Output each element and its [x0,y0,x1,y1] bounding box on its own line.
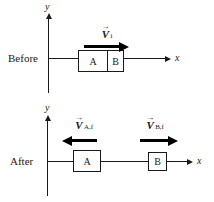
after-y-axis-label: y [45,103,49,113]
before-block-a-label: A [89,56,96,67]
before-block-b: B [107,50,124,72]
after-y-axis-line [47,120,48,196]
before-x-axis-arrowhead-icon [165,56,171,62]
after-x-axis-label: x [197,156,201,166]
final-velocity-a-label: → V A,f [68,115,100,130]
initial-velocity-label: → V i [94,24,120,39]
before-y-axis-line [48,18,49,93]
after-block-b-label: B [154,156,161,167]
after-stage-label: After [10,155,33,167]
after-block-b: B [148,152,167,171]
before-stage-label: Before [8,52,38,64]
before-block-b-label: B [112,56,119,67]
final-velocity-a-arrow [71,139,97,142]
initial-velocity-subscript: i [111,33,113,40]
final-velocity-b-symbol: V [146,120,153,130]
initial-velocity-arrowhead-icon [119,42,129,52]
after-y-axis-arrowhead-icon [45,115,51,121]
after-block-a-label: A [83,156,90,167]
before-y-axis-label: y [45,2,49,12]
final-velocity-b-subscript: B,f [155,124,164,131]
final-velocity-b-arrow [140,139,169,142]
final-velocity-b-label: → V B,f [139,115,171,130]
initial-velocity-arrow [84,45,120,48]
after-x-axis-arrowhead-icon [187,159,193,165]
before-y-axis-arrowhead-icon [46,13,52,19]
collision-before-after-diagram: Before y x A B → V i After y [0,0,214,202]
initial-velocity-symbol: V [102,29,109,39]
final-velocity-a-subscript: A,f [84,124,93,131]
before-block-pair: A B [78,50,124,72]
after-block-a: A [73,150,101,172]
final-velocity-b-arrowhead-icon [168,136,178,146]
final-velocity-a-symbol: V [75,120,82,130]
before-x-axis-label: x [175,53,179,63]
before-block-a: A [78,50,108,72]
